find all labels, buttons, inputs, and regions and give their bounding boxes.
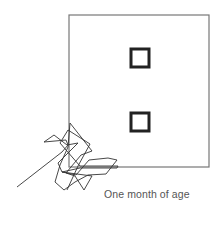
eye-scan-path <box>17 123 118 190</box>
figure-caption: One month of age <box>104 188 190 200</box>
upper-feature-square <box>131 49 149 67</box>
lower-feature-square <box>131 113 149 131</box>
